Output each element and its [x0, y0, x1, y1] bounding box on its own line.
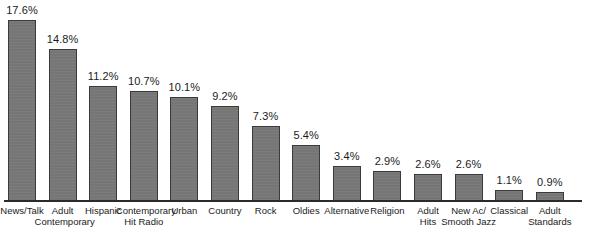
- bar-group: 1.1%Classical: [489, 0, 529, 233]
- bar-value-label: 14.8%: [35, 33, 91, 45]
- bar-group: 14.8%Adult Contemporary: [43, 0, 83, 233]
- bar-group: 5.4%Oldies: [286, 0, 326, 233]
- bar: [49, 49, 77, 201]
- bar-column: [327, 0, 367, 201]
- bar: [170, 97, 198, 201]
- bar-column: [246, 0, 286, 201]
- bar-column: [367, 0, 407, 201]
- bar-column: [489, 0, 529, 201]
- bar: [333, 166, 361, 201]
- bar: [455, 174, 483, 201]
- bar-group: 7.3%Rock: [246, 0, 286, 233]
- bar: [252, 126, 280, 201]
- bar: [211, 106, 239, 201]
- bar-column: [43, 0, 83, 201]
- x-axis-line: [4, 200, 582, 202]
- plot-area: 17.6%News/Talk14.8%Adult Contemporary11.…: [0, 0, 591, 233]
- bar: [292, 145, 320, 201]
- bar-group: 2.6%Adult Hits: [408, 0, 448, 233]
- bar-group: 2.6%New Ac/ Smooth Jazz: [449, 0, 489, 233]
- bar-category-label: Adult Standards: [522, 205, 578, 227]
- bar-value-label: 7.3%: [238, 110, 294, 122]
- bar: [373, 171, 401, 201]
- bar-column: [449, 0, 489, 201]
- bar-chart: 17.6%News/Talk14.8%Adult Contemporary11.…: [0, 0, 591, 233]
- bar-value-label: 2.6%: [441, 158, 497, 170]
- bar-group: 3.4%Alternative: [327, 0, 367, 233]
- bar-column: [530, 0, 570, 201]
- bar-group: 2.9%Religion: [367, 0, 407, 233]
- bar-column: [83, 0, 123, 201]
- bar: [130, 91, 158, 201]
- bar-group: 10.1%Urban: [164, 0, 204, 233]
- bar-column: [408, 0, 448, 201]
- bar-group: 10.7%Contemporary Hit Radio: [124, 0, 164, 233]
- bar-value-label: 5.4%: [278, 129, 334, 141]
- bar-column: [2, 0, 42, 201]
- bar-value-label: 9.2%: [197, 90, 253, 102]
- bar: [414, 174, 442, 201]
- bar-column: [286, 0, 326, 201]
- bar-value-label: 0.9%: [522, 176, 578, 188]
- bar-group: 11.2%Hispanic: [83, 0, 123, 233]
- bar: [89, 86, 117, 201]
- bar-column: [124, 0, 164, 201]
- bar: [8, 20, 36, 201]
- bar-group: 0.9%Adult Standards: [530, 0, 570, 233]
